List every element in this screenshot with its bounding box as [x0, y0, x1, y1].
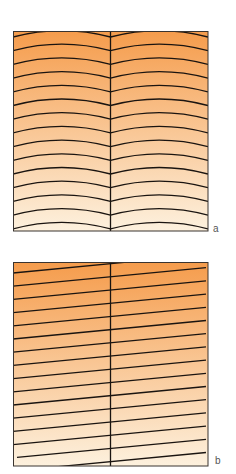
inclined-contour-diagram: [0, 0, 236, 474]
panel-b: b: [0, 0, 236, 474]
panel-label-b: b: [215, 456, 221, 466]
inclined-contour-line: [13, 241, 206, 259]
